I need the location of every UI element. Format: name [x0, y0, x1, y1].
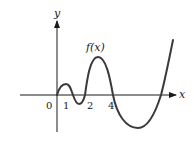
- x-axis-label: x: [179, 88, 186, 101]
- y-axis-label: y: [53, 7, 61, 20]
- function-label: f(x): [85, 41, 105, 54]
- tick-label-0: 0: [46, 100, 52, 111]
- tick-label-1: 1: [63, 100, 69, 111]
- tick-label-2: 2: [87, 100, 93, 111]
- function-graph: y x f(x) 0 1 2 4: [0, 0, 194, 145]
- tick-label-4: 4: [108, 100, 114, 111]
- function-curve: [57, 40, 173, 128]
- graph-canvas: y x f(x) 0 1 2 4: [0, 0, 194, 145]
